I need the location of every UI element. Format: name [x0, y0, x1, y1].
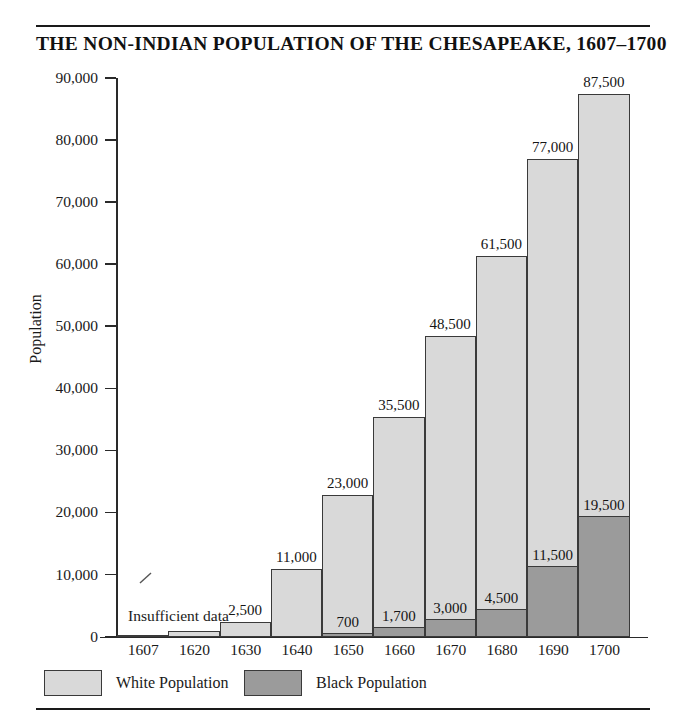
bar-total-value-label: 35,500: [378, 397, 419, 414]
y-axis-tick-label: 90,000: [12, 69, 98, 87]
y-axis-tick-label: 60,000: [12, 255, 98, 273]
bar-segment-black[interactable]: [476, 609, 527, 637]
x-axis-tick-label: 1607: [118, 641, 169, 659]
legend-item-black-population[interactable]: Black Population: [244, 669, 427, 697]
y-axis-tick-mark: [105, 139, 116, 141]
x-axis-tick-label: 1700: [579, 641, 630, 659]
y-axis-tick-label: 40,000: [12, 379, 98, 397]
bar-total-value-label: 2,500: [228, 602, 262, 619]
legend-label: Black Population: [316, 674, 427, 692]
bar-segment-black[interactable]: [578, 516, 629, 637]
y-axis-tick-label: 20,000: [12, 503, 98, 521]
bar-black-value-label: 4,500: [485, 590, 519, 607]
bar-segment-black[interactable]: [373, 627, 424, 638]
bar-total-value-label: 11,000: [276, 549, 317, 566]
bar-black-value-label: 3,000: [433, 600, 467, 617]
bar-segment-white[interactable]: [476, 256, 527, 638]
bar-total-value-label: 48,500: [430, 316, 471, 333]
x-axis-tick-label: 1640: [271, 641, 322, 659]
legend-label: White Population: [116, 674, 228, 692]
bar-segment-black[interactable]: [527, 566, 578, 637]
y-axis-tick-mark: [105, 325, 116, 327]
y-axis-tick-mark: [105, 636, 116, 638]
bar-group[interactable]: 70023,000: [322, 79, 373, 638]
bar-group[interactable]: 2,500: [220, 79, 271, 638]
plot-area: 2,50011,00070023,0001,70035,5003,00048,5…: [117, 78, 630, 637]
bar-black-value-label: 1,700: [382, 608, 416, 625]
bar-total-value-label: 87,500: [583, 74, 624, 91]
y-axis-tick-label: 10,000: [12, 566, 98, 584]
legend-swatch-black-population: [244, 670, 302, 696]
legend-item-white-population[interactable]: White Population: [44, 669, 228, 697]
x-axis-tick-label: 1670: [425, 641, 476, 659]
bar-segment-white[interactable]: [117, 635, 168, 637]
bar-group[interactable]: [117, 79, 168, 638]
bar-segment-white[interactable]: [373, 417, 424, 637]
x-axis-tick-label: 1620: [169, 641, 220, 659]
bar-segment-black[interactable]: [425, 619, 476, 638]
page-title: THE NON-INDIAN POPULATION OF THE CHESAPE…: [36, 33, 650, 55]
bar-group[interactable]: 1,70035,500: [373, 79, 424, 638]
bar-group[interactable]: [168, 79, 219, 638]
y-axis-tick-mark: [105, 263, 116, 265]
bar-segment-white[interactable]: [271, 569, 322, 637]
bar-segment-white[interactable]: [168, 631, 219, 637]
y-axis-title: Population: [27, 249, 45, 409]
y-axis-tick-mark: [105, 388, 116, 390]
bar-group[interactable]: 4,50061,500: [476, 79, 527, 638]
bar-black-value-label: 11,500: [532, 547, 573, 564]
x-axis-tick-label: 1650: [323, 641, 374, 659]
bar-group[interactable]: 3,00048,500: [425, 79, 476, 638]
insufficient-data-annotation: Insufficient data: [128, 607, 229, 625]
y-axis-tick-label: 70,000: [12, 193, 98, 211]
y-axis-tick-label: 0: [12, 628, 98, 646]
bar-group[interactable]: 11,000: [271, 79, 322, 638]
y-axis-tick-mark: [105, 201, 116, 203]
bar-segment-white[interactable]: [425, 336, 476, 637]
y-axis-tick-label: 30,000: [12, 441, 98, 459]
bar-total-value-label: 23,000: [327, 475, 368, 492]
x-axis-tick-label: 1690: [528, 641, 579, 659]
bar-black-value-label: 19,500: [583, 497, 624, 514]
y-axis-tick-mark: [105, 574, 116, 576]
y-axis-tick-labels: 010,00020,00030,00040,00050,00060,00070,…: [10, 0, 98, 726]
bar-black-value-label: 700: [336, 614, 359, 631]
y-axis-tick-mark: [105, 512, 116, 514]
bar-total-value-label: 61,500: [481, 236, 522, 253]
bar-group[interactable]: 19,50087,500: [578, 79, 629, 638]
y-axis-tick-mark: [105, 450, 116, 452]
legend-swatch-white-population: [44, 670, 102, 696]
bar-total-value-label: 77,000: [532, 139, 573, 156]
x-axis-tick-label: 1630: [220, 641, 271, 659]
bar-group[interactable]: 11,50077,000: [527, 79, 578, 638]
x-axis-tick-label: 1660: [374, 641, 425, 659]
bar-segment-black[interactable]: [322, 633, 373, 637]
y-axis-tick-label: 80,000: [12, 131, 98, 149]
top-divider-rule: [36, 25, 650, 27]
axis-break-icon: [139, 570, 153, 582]
y-axis-tick-mark: [105, 77, 116, 79]
bottom-divider-rule: [36, 708, 650, 710]
x-axis-tick-label: 1680: [476, 641, 527, 659]
y-axis-tick-label: 50,000: [12, 317, 98, 335]
